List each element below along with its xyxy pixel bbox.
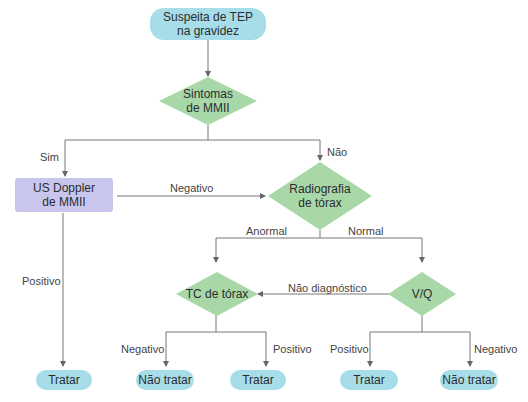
doppler-process: US Doppler de MMII bbox=[15, 178, 113, 212]
xray-label-line2: de tórax bbox=[298, 196, 341, 210]
edge-label-positivo-doppler: Positivo bbox=[22, 275, 61, 287]
end-nao-tratar-1: Não tratar bbox=[136, 370, 194, 390]
edge-label-anormal: Anormal bbox=[246, 225, 287, 237]
end-label: Não tratar bbox=[138, 373, 191, 387]
edge-label-normal: Normal bbox=[348, 225, 383, 237]
end-tratar-1: Tratar bbox=[36, 370, 92, 390]
edge-label-nao-diagnostico: Não diagnóstico bbox=[288, 282, 367, 294]
end-label: Não tratar bbox=[442, 373, 495, 387]
edge-label-sim: Sim bbox=[40, 151, 59, 163]
start-label-line1: Suspeita de TEP bbox=[163, 10, 253, 24]
xray-decision: Radiografia de tórax bbox=[268, 162, 372, 230]
vq-decision: V/Q bbox=[388, 272, 456, 316]
end-tratar-3: Tratar bbox=[340, 370, 398, 390]
end-tratar-2: Tratar bbox=[230, 370, 286, 390]
edge-label-negativo-doppler: Negativo bbox=[170, 182, 213, 194]
ct-label: TC de tórax bbox=[186, 287, 249, 301]
symptoms-decision: Sintomas de MMII bbox=[159, 77, 257, 125]
edge-label-vq-positivo: Positivo bbox=[330, 343, 369, 355]
doppler-label-line2: de MMII bbox=[42, 195, 85, 209]
xray-label-line1: Radiografia bbox=[289, 182, 350, 196]
end-label: Tratar bbox=[353, 373, 385, 387]
symptoms-label-line2: de MMII bbox=[186, 101, 229, 115]
edge-label-vq-negativo: Negativo bbox=[474, 343, 517, 355]
edge-label-ct-positivo: Positivo bbox=[273, 343, 312, 355]
end-nao-tratar-2: Não tratar bbox=[440, 370, 498, 390]
start-node: Suspeita de TEP na gravidez bbox=[150, 8, 266, 40]
symptoms-label-line1: Sintomas bbox=[183, 87, 233, 101]
vq-label: V/Q bbox=[412, 287, 433, 301]
start-label-line2: na gravidez bbox=[177, 24, 239, 38]
edge-label-nao: Não bbox=[327, 146, 347, 158]
ct-decision: TC de tórax bbox=[176, 272, 258, 316]
end-label: Tratar bbox=[48, 373, 80, 387]
edge-label-ct-negativo: Negativo bbox=[121, 343, 164, 355]
doppler-label-line1: US Doppler bbox=[33, 181, 95, 195]
end-label: Tratar bbox=[242, 373, 274, 387]
